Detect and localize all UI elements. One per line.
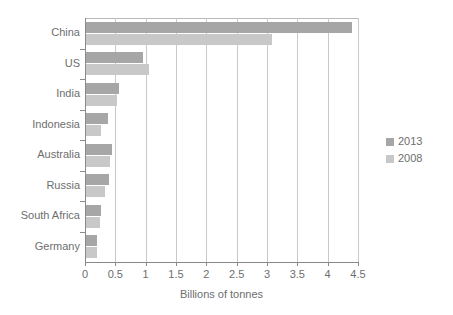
bar-india-2013[interactable] (85, 83, 119, 94)
category-label-india: India (56, 87, 80, 99)
x-axis-tick-label: 3.5 (290, 268, 305, 280)
x-axis-title: Billions of tonnes (85, 288, 358, 300)
x-axis-tick (358, 262, 359, 266)
y-axis-tick (80, 110, 85, 111)
x-axis-tick (237, 262, 238, 266)
bar-group (85, 235, 358, 258)
bar-group (85, 22, 358, 45)
y-axis-tick (80, 201, 85, 202)
x-axis-tick (297, 262, 298, 266)
x-axis-tick-label: 1 (143, 268, 149, 280)
x-axis-tick-label: 2.5 (229, 268, 244, 280)
category-label-china: China (51, 26, 80, 38)
bar-south-africa-2013[interactable] (85, 205, 101, 216)
chart-legend: 20132008 (386, 133, 422, 167)
x-axis-tick-label: 4 (325, 268, 331, 280)
category-label-indonesia: Indonesia (32, 118, 80, 130)
x-axis-tick (328, 262, 329, 266)
bar-group (85, 144, 358, 167)
x-axis-tick-label: 1.5 (168, 268, 183, 280)
gridline (358, 18, 359, 262)
y-axis-tick (80, 140, 85, 141)
bar-russia-2008[interactable] (85, 186, 105, 197)
x-axis-tick-label: 0 (82, 268, 88, 280)
x-axis-tick (267, 262, 268, 266)
y-axis-tick (80, 171, 85, 172)
category-label-russia: Russia (46, 179, 80, 191)
plot-top-border (85, 18, 358, 19)
x-axis-tick (146, 262, 147, 266)
y-axis-tick (80, 232, 85, 233)
category-label-germany: Germany (35, 240, 80, 252)
bar-us-2008[interactable] (85, 64, 149, 75)
bar-indonesia-2008[interactable] (85, 125, 101, 136)
bar-indonesia-2013[interactable] (85, 113, 108, 124)
category-label-us: US (65, 57, 80, 69)
x-axis-tick (176, 262, 177, 266)
y-axis-tick (80, 49, 85, 50)
x-axis-tick-label: 4.5 (350, 268, 365, 280)
bar-china-2008[interactable] (85, 34, 272, 45)
bar-group (85, 113, 358, 136)
legend-swatch-icon (386, 138, 394, 146)
bar-us-2013[interactable] (85, 52, 143, 63)
x-axis-tick (85, 262, 86, 266)
bar-group (85, 52, 358, 75)
bar-germany-2013[interactable] (85, 235, 97, 246)
bar-group (85, 205, 358, 228)
x-axis-tick-label: 2 (203, 268, 209, 280)
bar-australia-2013[interactable] (85, 144, 112, 155)
legend-item-2008[interactable]: 2008 (386, 150, 422, 167)
legend-label: 2013 (398, 136, 422, 147)
x-axis-tick-label: 0.5 (108, 268, 123, 280)
bar-india-2008[interactable] (85, 95, 117, 106)
x-axis-tick-label: 3 (264, 268, 270, 280)
category-label-australia: Australia (37, 148, 80, 160)
x-axis-tick (115, 262, 116, 266)
bar-russia-2013[interactable] (85, 174, 109, 185)
y-axis-line (85, 18, 86, 262)
bar-group (85, 174, 358, 197)
plot-area (85, 18, 358, 262)
bar-china-2013[interactable] (85, 22, 352, 33)
legend-item-2013[interactable]: 2013 (386, 133, 422, 150)
bar-south-africa-2008[interactable] (85, 217, 100, 228)
legend-swatch-icon (386, 155, 394, 163)
bar-australia-2008[interactable] (85, 156, 110, 167)
x-axis-line (85, 262, 358, 263)
bar-germany-2008[interactable] (85, 247, 97, 258)
x-axis-tick (206, 262, 207, 266)
category-label-south-africa: South Africa (21, 209, 80, 221)
legend-label: 2008 (398, 153, 422, 164)
y-axis-tick (80, 79, 85, 80)
bar-group (85, 83, 358, 106)
bar-chart: ChinaUSIndiaIndonesiaAustraliaRussiaSout… (0, 0, 453, 315)
